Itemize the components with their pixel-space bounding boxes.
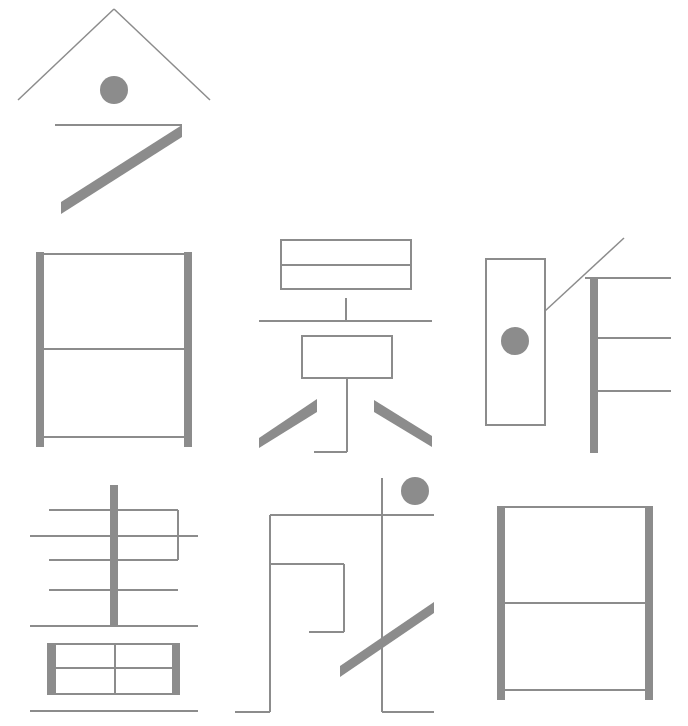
stroke-line [18, 9, 114, 100]
outline-box [302, 336, 392, 378]
thick-bar [184, 252, 192, 447]
slant-stroke [340, 602, 434, 677]
thick-bar [645, 506, 653, 700]
thick-bar [172, 643, 180, 695]
dot-icon [401, 477, 429, 505]
glyph-zuo: 昨 [486, 238, 671, 453]
artwork-svg: 今日景昨書成日 [0, 0, 688, 726]
glyph-jing: 景 [259, 240, 432, 452]
slant-stroke [61, 125, 182, 214]
thick-bar [497, 506, 505, 700]
dot-icon [100, 76, 128, 104]
thick-bar [48, 643, 56, 695]
glyph-ri2: 日 [497, 506, 653, 700]
typographic-artwork: 今日景昨書成日 今 日景昨 書成日 [0, 0, 688, 726]
thick-bar [36, 252, 44, 447]
thick-bar [590, 278, 598, 453]
slant-stroke [374, 400, 432, 447]
glyph-ri: 日 [36, 252, 192, 447]
slant-stroke [259, 399, 317, 448]
glyph-shu: 書 [30, 485, 198, 711]
glyph-jin: 今 [18, 9, 210, 214]
dot-icon [501, 327, 529, 355]
stroke-line [545, 238, 624, 311]
stroke-line [114, 9, 210, 100]
thick-bar [110, 485, 118, 626]
glyph-cheng: 成 [235, 477, 434, 712]
